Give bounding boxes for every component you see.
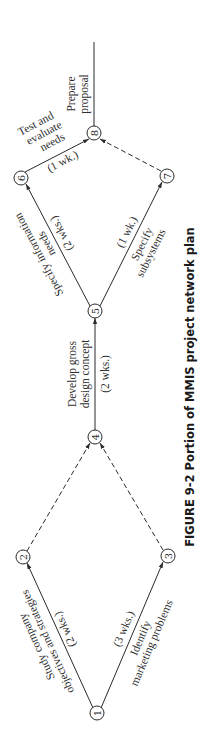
activity-4-5-name-line1: Develop gross <box>66 340 79 407</box>
dummy-edge-7-8 <box>100 139 161 171</box>
activity-5-6-label: Specify information needs (2 wks.) <box>12 196 93 298</box>
node-3: 3 <box>161 549 175 563</box>
node-4: 4 <box>88 430 102 444</box>
node-2-label: 2 <box>18 554 29 560</box>
node-3-label: 3 <box>163 553 174 559</box>
node-1-label: 1 <box>92 710 103 716</box>
node-2: 2 <box>16 550 30 564</box>
node-6: 6 <box>14 171 28 185</box>
activity-4-5-duration: (2 wks.) <box>99 355 112 393</box>
activity-6-8-label: Test and evaluate needs (1 wk.) <box>16 107 81 179</box>
figure-caption: FIGURE 9-2 Portion of MMIS project netwo… <box>183 227 197 547</box>
dummy-edge-2-4 <box>27 443 90 551</box>
activity-1-3-label: (3 wks.) Identify marketing problems <box>99 585 176 688</box>
node-7-label: 7 <box>162 173 173 179</box>
activity-8-end-name-line2: proposal <box>78 74 91 114</box>
network-diagram: 1 2 3 4 5 6 7 8 S <box>0 0 204 752</box>
activity-8-end-label: Prepare proposal <box>65 74 91 114</box>
activity-5-7-label: (1 wk.) Specify subsystems <box>106 212 169 279</box>
dummy-edge-3-4 <box>100 443 163 550</box>
activity-4-5-name-line2: design concept <box>79 339 92 408</box>
node-7: 7 <box>160 169 174 183</box>
activity-1-2-label: Study company objectives and strategies … <box>7 579 96 701</box>
activity-1-2-duration: (2 wks.) <box>51 609 79 649</box>
node-5: 5 <box>88 304 102 318</box>
node-8: 8 <box>87 126 101 140</box>
node-6-label: 6 <box>16 175 27 181</box>
node-1: 1 <box>90 706 104 720</box>
node-4-label: 4 <box>90 434 101 440</box>
node-5-label: 5 <box>90 308 101 314</box>
activity-8-end-name-line1: Prepare <box>65 76 78 111</box>
node-8-label: 8 <box>89 130 100 136</box>
activity-4-5-label: Develop gross design concept (2 wks.) <box>66 339 112 408</box>
